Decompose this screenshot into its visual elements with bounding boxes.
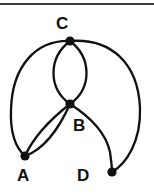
node-label-c: C	[56, 15, 68, 32]
node-C	[65, 36, 74, 45]
node-label-b: B	[73, 117, 85, 134]
node-D	[107, 167, 116, 176]
graph-canvas	[0, 0, 154, 194]
node-B	[65, 99, 74, 108]
node-label-d: D	[77, 167, 89, 184]
node-label-a: A	[17, 167, 29, 184]
edge-B-D	[70, 104, 112, 172]
edge-C-A	[11, 41, 70, 156]
edge-C-B-right	[70, 41, 87, 104]
node-A	[20, 151, 29, 160]
edge-C-D	[70, 41, 140, 172]
graph-figure: C B A D	[0, 0, 154, 194]
edge-B-A-upper	[25, 104, 70, 156]
edge-B-A-lower	[25, 104, 70, 156]
edge-C-B-left	[54, 41, 71, 104]
